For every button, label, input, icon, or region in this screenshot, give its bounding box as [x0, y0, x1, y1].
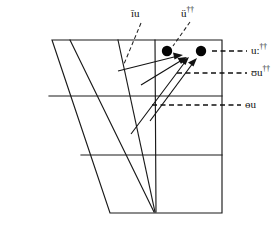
label-barred-o-u-text: ɵu	[245, 98, 256, 110]
chart-background	[0, 0, 279, 227]
vowel-point-iu	[162, 46, 172, 56]
label-u-long-sup: ††	[260, 42, 268, 51]
label-upsilon-u: ʊu††	[251, 67, 270, 78]
label-u-long-text: u:	[251, 44, 260, 56]
vowel-chart-figure: īu ü†† u:†† ʊu†† ɵu	[0, 0, 279, 227]
label-u-long: u:††	[251, 45, 267, 56]
vowel-point-u-umlaut	[196, 46, 206, 56]
label-u-umlaut-sup: ††	[187, 5, 195, 14]
vowel-quadrilateral-svg	[0, 0, 279, 227]
label-iu-text: īu	[131, 7, 140, 19]
label-upsilon-u-sup: ††	[263, 64, 271, 73]
label-iu: īu	[131, 8, 140, 19]
label-barred-o-u: ɵu	[245, 99, 256, 110]
label-u-umlaut: ü††	[181, 8, 194, 19]
label-upsilon-u-text: ʊu	[251, 66, 263, 78]
